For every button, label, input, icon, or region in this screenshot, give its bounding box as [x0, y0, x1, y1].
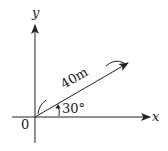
angle-label: 30° — [62, 101, 85, 116]
vector-diagram: y x 0 40m 30° — [0, 0, 168, 151]
angle-arc-icon — [56, 104, 61, 116]
rotation-arc-top — [106, 61, 124, 66]
y-axis-label: y — [31, 5, 40, 20]
rotation-arc-origin — [38, 100, 46, 114]
x-axis-label: x — [152, 109, 160, 124]
origin-label: 0 — [21, 117, 29, 132]
